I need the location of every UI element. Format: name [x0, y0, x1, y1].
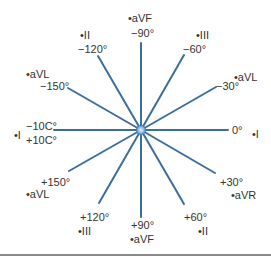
axis-line-minus120	[98, 56, 141, 130]
degree-label-minus90: −90°	[131, 27, 154, 39]
axis-line-minus150	[68, 88, 141, 130]
degree-label-180-top: −10C°	[26, 120, 57, 132]
degree-label-plus150: +150°	[41, 176, 70, 188]
lead-label-plus120: •III	[78, 225, 91, 237]
lead-label-minus150: •aVL	[26, 68, 49, 80]
center-dot-icon	[136, 125, 146, 135]
lead-label-0: •I	[252, 128, 259, 140]
degree-label-plus30: +30°	[220, 176, 243, 188]
degree-label-minus30: −30°	[216, 80, 239, 92]
lead-label-180: •I	[14, 129, 21, 141]
degree-label-plus60: +60°	[184, 211, 207, 223]
degree-label-0: 0°	[232, 124, 243, 136]
bottom-rule	[0, 254, 271, 256]
lead-label-plus90: •aVF	[130, 233, 154, 245]
lead-label-plus150: •aVL	[26, 188, 49, 200]
lead-label-minus120: •II	[80, 29, 90, 41]
degree-label-minus60: −60°	[183, 43, 206, 55]
degree-label-plus90: +90°	[131, 219, 154, 231]
degree-label-plus120: +120°	[80, 211, 109, 223]
lead-label-plus30: •aVR	[231, 189, 256, 201]
degree-label-minus150: −150°	[40, 80, 69, 92]
degree-label-minus120: −120°	[78, 43, 107, 55]
degree-label-180-bottom: +10C°	[26, 134, 57, 146]
lead-label-plus60: •II	[198, 225, 208, 237]
lead-label-minus90: •aVF	[128, 12, 152, 24]
axis-line-plus30	[141, 130, 215, 173]
lead-label-minus60: •III	[196, 29, 209, 41]
axis-line-plus60	[141, 130, 184, 204]
hexaxial-diagram: •aVF −90° •III −60° •aVL −30° 0° •I +30°…	[0, 0, 271, 257]
